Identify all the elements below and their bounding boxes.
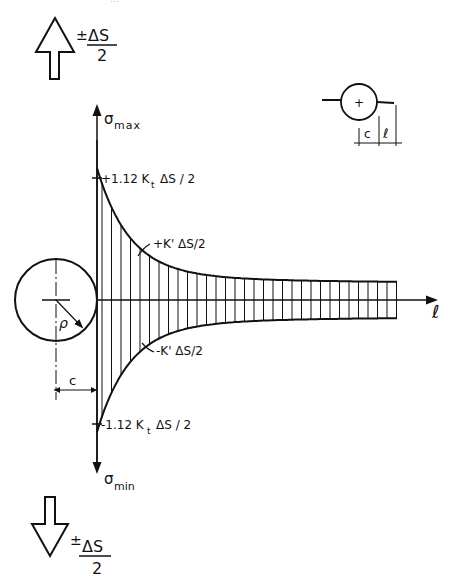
svg-text:t: t xyxy=(151,180,155,190)
svg-text:±: ± xyxy=(70,532,82,548)
svg-text:c: c xyxy=(364,127,371,141)
lower-stress-curve xyxy=(97,318,397,432)
svg-text:+1.12 K: +1.12 K xyxy=(101,172,151,186)
load-arrow-up-icon xyxy=(36,18,74,79)
svg-text:2: 2 xyxy=(97,46,107,65)
svg-text:2: 2 xyxy=(92,559,102,578)
svg-text:min: min xyxy=(114,480,135,493)
load-arrow-down-icon xyxy=(32,497,68,556)
peak-top-label: +1.12 K t ΔS / 2 xyxy=(101,172,195,190)
svg-text:max: max xyxy=(114,119,141,132)
svg-text:±: ± xyxy=(76,27,88,43)
length-axis-label: ℓ xyxy=(431,301,439,322)
svg-text:ΔS / 2: ΔS / 2 xyxy=(160,172,195,186)
load-label-top: ± ΔS 2 xyxy=(76,26,117,65)
inset-crack-geometry: + c ℓ xyxy=(322,84,402,146)
load-label-bottom: ± ΔS 2 xyxy=(70,532,111,578)
svg-text:σ: σ xyxy=(104,470,114,488)
peak-bottom-label: -1.12 K t ΔS / 2 xyxy=(101,418,191,436)
radius-label: ρ xyxy=(59,315,68,331)
svg-text:-1.12 K: -1.12 K xyxy=(101,418,145,432)
svg-text:σ: σ xyxy=(104,110,114,128)
lower-curve-label: -K' ΔS/2 xyxy=(156,344,203,358)
hole-circle: ρ xyxy=(15,259,97,400)
svg-text:ΔS: ΔS xyxy=(88,26,109,45)
inset-center-mark: + xyxy=(354,96,364,110)
svg-text:t: t xyxy=(147,426,151,436)
crack-stress-diagram: ± ΔS 2 ± ΔS 2 σ max σ min ℓ +1.12 K t ΔS… xyxy=(0,0,452,584)
svg-text:ΔS / 2: ΔS / 2 xyxy=(156,418,191,432)
svg-text:ΔS: ΔS xyxy=(82,537,103,556)
dimension-c: c xyxy=(54,373,97,393)
svg-text:ℓ: ℓ xyxy=(382,126,388,141)
svg-text:c: c xyxy=(69,373,76,388)
sigma-min-label: σ min xyxy=(104,470,135,493)
upper-curve-label: +K' ΔS/2 xyxy=(153,237,206,251)
sigma-max-label: σ max xyxy=(104,110,141,132)
